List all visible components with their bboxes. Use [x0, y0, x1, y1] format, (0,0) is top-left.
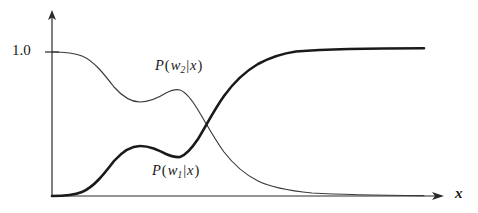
label-w2-w: w: [171, 57, 181, 73]
label-w1-P: P: [152, 162, 161, 178]
plot-canvas: [0, 0, 478, 213]
label-w1-close-paren: ): [193, 162, 200, 178]
label-w1-w: w: [168, 162, 178, 178]
y-axis-tick-label: 1.0: [12, 43, 31, 58]
label-w1-open-paren: (: [161, 162, 168, 178]
posterior-probability-figure: 1.0 x P(w2|x) P(w1|x): [0, 0, 478, 213]
label-w2-close-paren: ): [196, 57, 203, 73]
label-w2-open-paren: (: [164, 57, 171, 73]
curve-label-posterior-w2: P(w2|x): [155, 58, 203, 75]
x-axis: [52, 192, 444, 200]
curve-posterior-w1: [52, 48, 424, 196]
x-axis-label: x: [455, 186, 463, 201]
curve-label-posterior-w1: P(w1|x): [152, 163, 200, 180]
curve-posterior-w2: [52, 52, 424, 196]
label-w2-P: P: [155, 57, 164, 73]
y-axis: [45, 10, 59, 196]
